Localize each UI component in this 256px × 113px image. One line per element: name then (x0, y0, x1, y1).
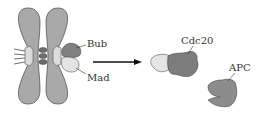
bub-label: Bub (87, 38, 107, 49)
kinetochore-left (25, 46, 33, 66)
microtubules-icon (14, 49, 25, 64)
mad-leader-line (76, 68, 86, 74)
diagram-canvas: Bub Mad Cdc20 APC (0, 0, 256, 113)
mad-label: Mad (87, 72, 110, 83)
kinetochore-right (53, 46, 61, 66)
cdc20-protein (168, 51, 198, 76)
cohesin-rings (39, 48, 47, 65)
arrow-icon (93, 59, 142, 65)
cdc20-label: Cdc20 (181, 35, 213, 46)
bub-protein (62, 43, 81, 57)
apc-protein (208, 79, 237, 107)
mad-protein (61, 57, 79, 72)
apc-label: APC (228, 62, 251, 73)
